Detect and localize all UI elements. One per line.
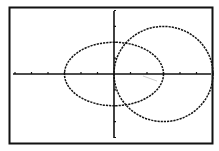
screen-border — [10, 8, 213, 144]
calculator-graph-screen — [0, 0, 219, 151]
graph-plot — [0, 0, 219, 151]
